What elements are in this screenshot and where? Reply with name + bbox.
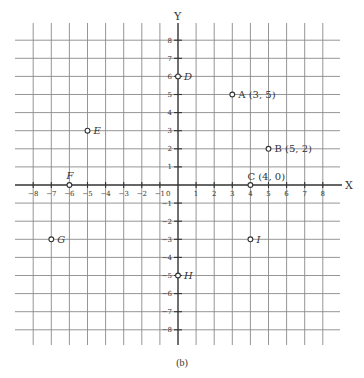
- point-marker-icon: [176, 273, 181, 278]
- x-tick-label: −8: [28, 190, 38, 198]
- figure-caption: (b): [0, 357, 364, 368]
- x-tick-label: −7: [46, 190, 56, 198]
- x-axis-label: X: [345, 179, 353, 192]
- y-tick-label: 4: [168, 109, 173, 117]
- point-label-h: H: [183, 270, 193, 281]
- x-tick-label: −2: [137, 190, 147, 198]
- point-marker-icon: [266, 146, 271, 151]
- coordinate-plane-figure: −8−7−6−5−4−3−2−11234567887654321−1−2−3−4…: [0, 0, 364, 378]
- y-tick-label: 3: [168, 127, 172, 135]
- point-marker-icon: [248, 237, 253, 242]
- x-tick-label: 3: [230, 190, 234, 198]
- x-tick-label: 2: [212, 190, 216, 198]
- y-tick-label: 6: [168, 73, 173, 81]
- point-marker-icon: [49, 237, 54, 242]
- y-tick-label: 5: [168, 91, 172, 99]
- point-label-a: A (3, 5): [237, 89, 275, 100]
- point-marker-icon: [176, 74, 181, 79]
- x-tick-label: 4: [248, 190, 253, 198]
- y-tick-label: −2: [162, 218, 172, 226]
- x-tick-label: −3: [119, 190, 129, 198]
- x-tick-label: −1: [155, 190, 165, 198]
- y-tick-label: −5: [162, 272, 172, 280]
- point-marker-icon: [67, 183, 72, 188]
- y-tick-label: 8: [168, 37, 172, 45]
- point-label-g: G: [57, 234, 65, 245]
- point-marker-icon: [85, 128, 90, 133]
- x-tick-label: −6: [64, 190, 75, 198]
- x-tick-label: 6: [284, 190, 289, 198]
- y-tick-label: 2: [168, 145, 172, 153]
- origin-label: 0: [166, 190, 170, 198]
- point-label-e: E: [93, 125, 102, 136]
- y-tick-label: −4: [162, 254, 173, 262]
- point-label-b: B (5, 2): [275, 143, 313, 154]
- y-tick-label: 1: [168, 163, 172, 171]
- x-tick-label: −4: [100, 190, 111, 198]
- point-label-c: C (4, 0): [247, 171, 285, 182]
- y-tick-label: −7: [162, 308, 172, 316]
- y-tick-label: −3: [162, 236, 172, 244]
- axes: [15, 23, 342, 345]
- coordinate-plane: −8−7−6−5−4−3−2−11234567887654321−1−2−3−4…: [0, 0, 364, 378]
- point-label-f: F: [65, 170, 74, 181]
- point-marker-icon: [230, 92, 235, 97]
- point-marker-icon: [248, 183, 253, 188]
- y-tick-label: −8: [162, 326, 172, 334]
- x-tick-label: 7: [302, 190, 306, 198]
- x-tick-label: −5: [82, 190, 92, 198]
- y-axis-label: Y: [173, 10, 182, 23]
- y-tick-label: −1: [162, 200, 172, 208]
- plotted-points: A (3, 5)B (5, 2)C (4, 0)DEFGHI: [49, 71, 312, 281]
- x-tick-label: 1: [194, 190, 198, 198]
- y-tick-label: −6: [162, 290, 173, 298]
- point-label-d: D: [183, 71, 192, 82]
- x-tick-label: 8: [321, 190, 325, 198]
- y-tick-label: 7: [168, 55, 172, 63]
- x-tick-label: 5: [266, 190, 270, 198]
